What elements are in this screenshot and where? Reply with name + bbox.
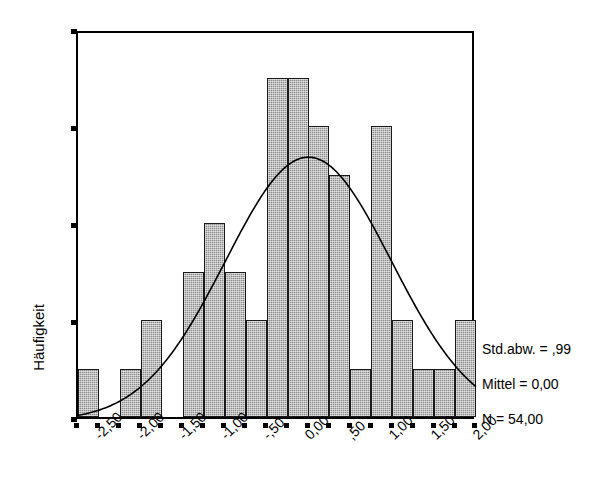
table-row (246, 320, 267, 417)
table-row (288, 78, 309, 418)
table-row (434, 369, 455, 418)
table-row (225, 272, 246, 418)
y-axis-title: Häufigkeit (31, 278, 46, 398)
table-row (455, 320, 476, 417)
plot-inner (78, 33, 472, 417)
table-row (392, 320, 413, 417)
std-dev-label: Std.abw. = ,99 (482, 342, 571, 356)
table-row (371, 126, 392, 417)
table-row (141, 320, 162, 417)
table-row (120, 369, 141, 418)
table-row (308, 126, 329, 417)
statistics-legend: Std.abw. = ,99 Mittel = 0,00 N = 54,00 (482, 342, 571, 426)
x-tick-label: ,50 (344, 418, 368, 442)
table-row (183, 272, 204, 418)
table-row (78, 369, 99, 418)
table-row (350, 369, 371, 418)
table-row (413, 369, 434, 418)
mean-label: Mittel = 0,00 (482, 377, 571, 391)
plot-area (76, 31, 474, 419)
table-row (329, 175, 350, 418)
x-tick-mark (74, 423, 79, 428)
histogram-chart: 8 6 4 2 0 Häufigkeit (0, 0, 598, 488)
n-label: N = 54,00 (482, 412, 571, 426)
table-row (267, 78, 288, 418)
x-tick-mark (368, 423, 373, 428)
table-row (204, 223, 225, 417)
